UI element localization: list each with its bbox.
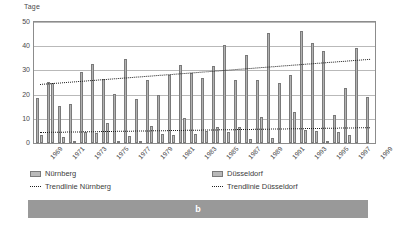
gridline	[34, 22, 375, 23]
caption-label: b	[195, 204, 201, 214]
bar-düsseldorf-1979	[150, 126, 153, 143]
bar-nürnberg-1978	[135, 99, 138, 143]
x-axis-tick-label: 1971	[70, 145, 85, 160]
x-axis-tick-label: 1989	[268, 145, 283, 160]
bar-düsseldorf-1970	[51, 83, 54, 144]
bar-düsseldorf-1984	[205, 131, 208, 143]
x-axis-tick-labels: 1969197119731975197719791981198319851987…	[33, 145, 376, 169]
bar-düsseldorf-1980	[161, 134, 164, 143]
bar-nürnberg-1981	[168, 75, 171, 143]
x-axis-tick-label: 1991	[290, 145, 305, 160]
bar-nürnberg-1999	[366, 97, 369, 143]
bar-nürnberg-1983	[190, 73, 193, 143]
legend-item-label: Trendlinie Düsseldorf	[227, 182, 298, 191]
x-axis-tick-label: 1987	[246, 145, 261, 160]
legend-item-trendlinie-düsseldorf: Trendlinie Düsseldorf	[212, 182, 298, 191]
bar-düsseldorf-1981	[172, 135, 175, 143]
bar-düsseldorf-1996	[337, 132, 340, 143]
bar-düsseldorf-1990	[271, 138, 274, 143]
y-axis-tick-label: 20	[0, 90, 30, 97]
legend-swatch-icon	[212, 171, 223, 177]
bar-nürnberg-1992	[289, 75, 292, 143]
bar-nürnberg-1982	[179, 65, 182, 143]
bar-nürnberg-1975	[102, 79, 105, 143]
x-axis-tick-label: 1975	[114, 145, 129, 160]
bar-nürnberg-1971	[58, 106, 61, 143]
legend-item-nürnberg: Nürnberg	[30, 169, 76, 178]
legend-item-trendlinie-nürnberg: Trendlinie Nürnberg	[30, 182, 111, 191]
legend-dotted-line-icon	[212, 186, 223, 187]
trendline-trendlinie-nürnberg	[40, 59, 370, 85]
bar-düsseldorf-1993	[304, 130, 307, 143]
x-axis-tick-label: 1979	[158, 145, 173, 160]
chart-legend: NürnbergDüsseldorfTrendlinie NürnbergTre…	[30, 169, 360, 195]
x-axis-tick-label: 1985	[224, 145, 239, 160]
legend-item-label: Düsseldorf	[227, 169, 263, 178]
bar-düsseldorf-1969	[40, 135, 43, 143]
y-axis-tick-label: 10	[0, 114, 30, 121]
bar-nürnberg-1976	[113, 94, 116, 143]
bar-nürnberg-1993	[300, 31, 303, 143]
bar-düsseldorf-1972	[73, 141, 76, 143]
bar-düsseldorf-1997	[348, 135, 351, 143]
bar-nürnberg-1984	[201, 78, 204, 143]
bar-nürnberg-1969	[36, 98, 39, 143]
x-axis-tick-label: 1999	[378, 145, 393, 160]
plot-area	[33, 21, 376, 144]
bar-düsseldorf-1995	[326, 141, 329, 143]
bar-nürnberg-1987	[234, 80, 237, 143]
x-axis-tick-label: 1995	[334, 145, 349, 160]
y-axis-tick-label: 30	[0, 66, 30, 73]
bar-düsseldorf-1977	[128, 136, 131, 143]
y-axis-tick-label: 40	[0, 42, 30, 49]
bar-nürnberg-1998	[355, 48, 358, 143]
y-axis-tick-label: 50	[0, 18, 30, 25]
bar-düsseldorf-1978	[139, 141, 142, 143]
bar-düsseldorf-1975	[106, 123, 109, 143]
bar-nürnberg-1972	[69, 104, 72, 143]
bar-düsseldorf-1971	[62, 137, 65, 143]
bar-nürnberg-1990	[267, 33, 270, 143]
bar-nürnberg-1970	[47, 82, 50, 143]
y-axis-tick-label: 0	[0, 139, 30, 146]
bar-nürnberg-1985	[212, 66, 215, 143]
gridline	[34, 46, 375, 47]
legend-item-düsseldorf: Düsseldorf	[212, 169, 263, 178]
bar-düsseldorf-1986	[227, 132, 230, 143]
bar-nürnberg-1996	[333, 115, 336, 143]
bar-nürnberg-1997	[344, 88, 347, 143]
caption-bar: b	[28, 200, 368, 218]
legend-item-label: Nürnberg	[45, 169, 76, 178]
bar-düsseldorf-1994	[315, 131, 318, 143]
bar-düsseldorf-1988	[249, 139, 252, 143]
x-axis-tick-label: 1983	[202, 145, 217, 160]
x-axis-tick-label: 1969	[48, 145, 63, 160]
bar-düsseldorf-1983	[194, 134, 197, 143]
bar-düsseldorf-1989	[260, 117, 263, 143]
x-axis-tick-label: 1973	[92, 145, 107, 160]
bar-nürnberg-1979	[146, 80, 149, 143]
bar-nürnberg-1980	[157, 95, 160, 143]
x-axis-tick-label: 1977	[136, 145, 151, 160]
legend-dotted-line-icon	[30, 186, 41, 187]
legend-item-label: Trendlinie Nürnberg	[45, 182, 111, 191]
bar-nürnberg-1995	[322, 51, 325, 143]
x-axis-tick-label: 1997	[356, 145, 371, 160]
bar-düsseldorf-1976	[117, 141, 120, 143]
bar-düsseldorf-1973	[84, 132, 87, 143]
y-axis-title: Tage	[24, 3, 40, 10]
x-axis-tick-label: 1981	[180, 145, 195, 160]
bar-düsseldorf-1974	[95, 133, 98, 143]
legend-swatch-icon	[30, 171, 41, 177]
x-axis-tick-label: 1993	[312, 145, 327, 160]
bar-nürnberg-1989	[256, 80, 259, 143]
bar-nürnberg-1991	[278, 83, 281, 144]
